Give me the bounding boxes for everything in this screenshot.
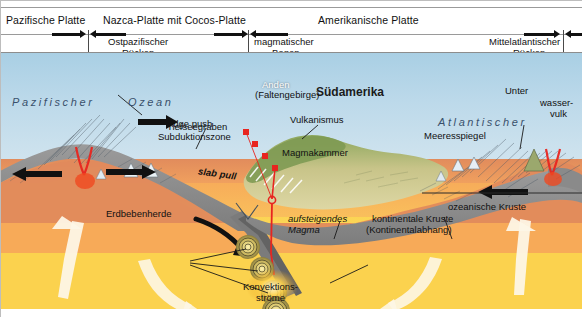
label-underwater-volcano-line1: Unter — [505, 85, 528, 96]
label-rising-magma-line1: aufsteigendes — [288, 213, 347, 224]
label-underwater-volcano-line2: wasser- — [540, 97, 573, 108]
span-arrow-far-right — [571, 33, 582, 36]
span-arrow-pacific-tip — [80, 30, 86, 38]
label-convection-currents-line2: ströme — [256, 292, 285, 303]
label-pacific-ocean-word2: Ozean — [128, 97, 173, 108]
label-fold-mountains: (Faltengebirge) — [255, 89, 319, 100]
label-mid-atlantic-ridge-line1: Mittelatlantischer — [489, 36, 560, 47]
label-east-pacific-rise-line1: Ostpazifischer — [108, 36, 168, 47]
label-atlantic: Atlantischer — [438, 117, 527, 128]
label-south-america: Südamerika — [316, 87, 384, 98]
ridge-magma-pocket-atlantic — [544, 172, 562, 186]
plate-label-pacific: Pazifische Platte — [6, 14, 85, 26]
label-rising-magma-line2: Magma — [288, 224, 320, 235]
label-convection-currents-line1: Konvektions- — [243, 281, 298, 292]
cross-section: Pazifischer Ozean ridge push Tiefseegrab… — [0, 52, 582, 309]
label-volcanism: Vulkanismus — [290, 114, 344, 125]
label-sea-level: Meeresspiegel — [424, 130, 486, 141]
span-arrow-nazca-left-tip — [90, 30, 96, 38]
ridge-magma-pocket-pacific — [75, 173, 95, 189]
span-arrow-pacific — [52, 33, 82, 36]
label-oceanic-crust: ozeanische Kruste — [448, 201, 526, 212]
label-continental-crust-line2: (Kontinentalabhang) — [366, 224, 452, 235]
label-continental-crust-line1: kontinentale Kruste — [372, 213, 453, 224]
label-magma-chamber: Magmakammer — [282, 147, 348, 158]
span-arrow-nazca-right — [214, 33, 244, 36]
label-subduction-zone: Subduktionszone — [158, 131, 231, 142]
label-pacific-ocean-word1: Pazifischer — [12, 97, 94, 108]
header-rule-top — [0, 7, 582, 8]
plate-label-american: Amerikanische Platte — [318, 14, 419, 26]
label-earthquake-foci: Erdbebenherde — [106, 208, 172, 219]
label-underwater-volcano-line3: vulk — [550, 108, 567, 119]
span-arrow-far-right-tip — [565, 30, 571, 38]
plate-label-nazca-cocos: Nazca-Platte mit Cocos-Platte — [103, 14, 246, 26]
plate-tectonics-figure: Pazifische Platte Nazca-Platte mit Cocos… — [0, 0, 582, 317]
hypocenter-shallow — [236, 235, 260, 259]
label-magmatic-arc-line1: magmatischer — [254, 36, 314, 47]
